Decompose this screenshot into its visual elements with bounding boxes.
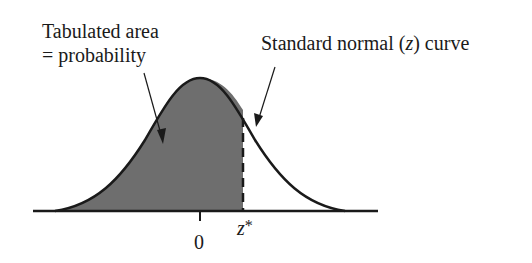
tabulated-area-label-line2: = probability — [42, 44, 146, 66]
curve-label: Standard normal (z) curve — [261, 32, 469, 54]
curve-label-prefix: Standard normal ( — [261, 32, 405, 54]
z-star-label: z* — [237, 217, 253, 241]
tabulated-area-label-line1: Tabulated area — [42, 20, 159, 42]
curve-label-suffix: ) curve — [413, 32, 469, 54]
z-star-asterisk: * — [245, 217, 253, 234]
tick-label-zero: 0 — [194, 231, 204, 253]
z-star-variable: z — [237, 217, 245, 239]
curve-arrow-line — [258, 67, 275, 121]
curve-arrowhead-icon — [254, 113, 263, 127]
shaded-probability-area — [55, 78, 243, 211]
